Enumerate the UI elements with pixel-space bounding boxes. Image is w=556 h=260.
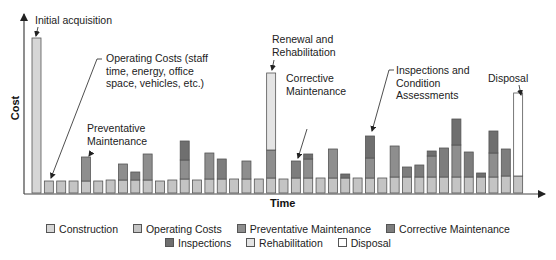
bar-segment-corrective-maintenance bbox=[403, 167, 412, 177]
y-axis-label: Cost bbox=[9, 96, 21, 120]
bar-segment-operating-costs bbox=[341, 178, 350, 193]
bar-segment-operating-costs bbox=[168, 180, 177, 193]
bar-segment-operating-costs bbox=[180, 179, 189, 193]
bar-segment-inspections bbox=[489, 131, 498, 153]
bar-segment-inspections bbox=[477, 173, 486, 177]
bar-segment-operating-costs bbox=[143, 180, 152, 193]
bar-segment-operating-costs bbox=[378, 178, 387, 193]
swatch-icon bbox=[46, 224, 55, 233]
bar-segment-operating-costs bbox=[230, 179, 239, 193]
bar-segment-corrective-maintenance bbox=[131, 172, 140, 180]
bar-segment-operating-costs bbox=[452, 177, 461, 193]
bar-segment-corrective-maintenance bbox=[464, 152, 473, 177]
swatch-icon bbox=[386, 224, 395, 233]
annotation-initial-acquisition: Initial acquisition bbox=[35, 14, 112, 27]
bar-segment-inspections bbox=[341, 174, 350, 178]
swatch-icon bbox=[338, 238, 347, 247]
legend-item-corrective-maintenance: Corrective Maintenance bbox=[386, 223, 510, 235]
bar-segment-preventative-maintenance bbox=[118, 164, 127, 180]
bar-segment-operating-costs bbox=[254, 179, 263, 193]
x-axis-label: Time bbox=[270, 197, 295, 209]
bar-segment-operating-costs bbox=[156, 181, 165, 193]
swatch-icon bbox=[246, 238, 255, 247]
bar-segment-operating-costs bbox=[501, 176, 510, 193]
annotation-preventative-maintenance: Preventative Maintenance bbox=[87, 122, 147, 147]
bar-segment-operating-costs bbox=[390, 177, 399, 193]
bar-segment-operating-costs bbox=[131, 180, 140, 193]
bar-segment-inspections bbox=[452, 119, 461, 145]
bar-segment-preventative-maintenance bbox=[81, 157, 90, 181]
bar-segment-operating-costs bbox=[205, 179, 214, 193]
bar-segment-preventative-maintenance bbox=[304, 159, 313, 178]
bar-segment-operating-costs bbox=[328, 178, 337, 193]
bar-segment-operating-costs bbox=[242, 179, 251, 193]
bar-segment-inspections bbox=[304, 154, 313, 159]
legend-item-operating-costs: Operating Costs bbox=[133, 223, 222, 235]
bar-segment-operating-costs bbox=[427, 177, 436, 193]
bar-segment-corrective-maintenance bbox=[217, 159, 226, 179]
swatch-icon bbox=[237, 224, 246, 233]
bar-segment-preventative-maintenance bbox=[489, 153, 498, 177]
bar-segment-operating-costs bbox=[365, 178, 374, 193]
bar-segment-preventative-maintenance bbox=[242, 161, 251, 179]
annotation-renewal-rehabilitation: Renewal and Rehabilitation bbox=[272, 33, 336, 58]
bar-segment-operating-costs bbox=[440, 177, 449, 193]
legend-row-2: Inspections Rehabilitation Disposal bbox=[0, 237, 556, 249]
bar-segment-operating-costs bbox=[304, 178, 313, 193]
bar-segment-operating-costs bbox=[464, 177, 473, 193]
bar-segment-operating-costs bbox=[489, 177, 498, 193]
bar-segment-construction bbox=[32, 38, 41, 193]
bar-segment-operating-costs bbox=[217, 179, 226, 193]
bar-segment-preventative-maintenance bbox=[143, 154, 152, 180]
bar-segment-operating-costs bbox=[514, 176, 523, 193]
bar-segment-rehabilitation bbox=[267, 73, 276, 150]
bar-segment-operating-costs bbox=[81, 181, 90, 193]
legend-item-preventative-maintenance: Preventative Maintenance bbox=[237, 223, 371, 235]
bar-segment-preventative-maintenance bbox=[390, 146, 399, 177]
bar-segment-corrective-maintenance bbox=[501, 149, 510, 176]
bar-segment-operating-costs bbox=[94, 181, 103, 193]
bar-segment-operating-costs bbox=[477, 177, 486, 193]
bar-segment-operating-costs bbox=[279, 179, 288, 193]
legend-item-disposal: Disposal bbox=[338, 237, 391, 249]
bar-segment-preventative-maintenance bbox=[267, 150, 276, 178]
bar-segment-operating-costs bbox=[118, 180, 127, 193]
bar-segment-operating-costs bbox=[403, 177, 412, 193]
annotation-disposal: Disposal bbox=[488, 72, 528, 85]
annotation-corrective-maintenance: Corrective Maintenance bbox=[286, 72, 346, 97]
bar-segment-operating-costs bbox=[193, 180, 202, 193]
bar-segment-inspections bbox=[365, 136, 374, 158]
legend-row-1: Construction Operating Costs Preventativ… bbox=[0, 223, 556, 235]
bar-segment-preventative-maintenance bbox=[180, 160, 189, 179]
bar-segment-inspections bbox=[427, 151, 436, 156]
bar-segment-operating-costs bbox=[291, 178, 300, 193]
bar-segment-operating-costs bbox=[267, 178, 276, 193]
bar-segment-preventative-maintenance bbox=[452, 145, 461, 177]
bar-segment-preventative-maintenance bbox=[328, 149, 337, 178]
annotation-inspections: Inspections and Condition Assessments bbox=[396, 64, 470, 102]
swatch-icon bbox=[133, 224, 142, 233]
bar-segment-preventative-maintenance bbox=[205, 153, 214, 179]
annotation-operating-costs: Operating Costs (staff time, energy, off… bbox=[106, 52, 208, 90]
bar-segment-corrective-maintenance bbox=[291, 161, 300, 178]
bar-segment-corrective-maintenance bbox=[415, 165, 424, 177]
lifecycle-cost-chart bbox=[0, 0, 556, 212]
bar-segment-operating-costs bbox=[44, 181, 53, 193]
bar-segment-operating-costs bbox=[415, 177, 424, 193]
legend-item-rehabilitation: Rehabilitation bbox=[246, 237, 323, 249]
bar-segment-operating-costs bbox=[57, 181, 66, 193]
legend-item-inspections: Inspections bbox=[165, 237, 231, 249]
bar-segment-preventative-maintenance bbox=[427, 156, 436, 177]
bar-segment-operating-costs bbox=[353, 178, 362, 193]
bar-segment-operating-costs bbox=[316, 178, 325, 193]
bar-segment-operating-costs bbox=[69, 181, 78, 193]
bar-segment-operating-costs bbox=[106, 180, 115, 193]
swatch-icon bbox=[165, 238, 174, 247]
bar-segment-disposal bbox=[514, 93, 523, 176]
bar-segment-preventative-maintenance bbox=[365, 158, 374, 178]
legend-item-construction: Construction bbox=[46, 223, 118, 235]
bar-segment-corrective-maintenance bbox=[440, 148, 449, 177]
bar-segment-inspections bbox=[180, 141, 189, 160]
